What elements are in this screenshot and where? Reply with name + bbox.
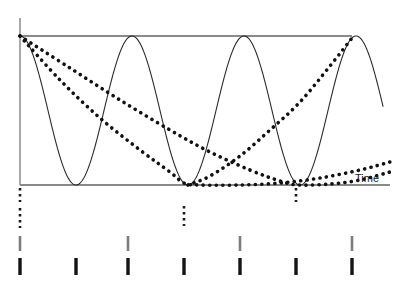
major-tick-row — [20, 236, 352, 251]
oscillation-diagram: Time — [0, 0, 406, 286]
drop-marker-group — [20, 188, 296, 228]
figure-root: Time — [0, 0, 406, 286]
time-axis-label: Time — [355, 172, 379, 184]
envelope-group — [20, 36, 390, 185]
axes-group — [20, 18, 390, 185]
minor-tick-row — [20, 258, 352, 275]
carrier-wave — [20, 36, 383, 185]
carrier-group — [20, 36, 383, 185]
